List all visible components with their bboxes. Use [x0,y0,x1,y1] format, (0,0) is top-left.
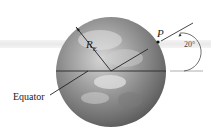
angle-arrowhead [179,33,182,37]
earth-diagram [0,0,211,134]
radius-label: RE [86,38,97,53]
radius-subscript: E [93,45,97,53]
radius-symbol: R [86,38,93,50]
equator-label: Equator [13,91,45,102]
point-p-label: P [157,27,164,39]
tangent-line [161,23,193,41]
angle-label: 20° [184,40,195,49]
point-p-marker [156,40,159,43]
angle-arc [180,33,201,71]
globe [56,17,166,127]
